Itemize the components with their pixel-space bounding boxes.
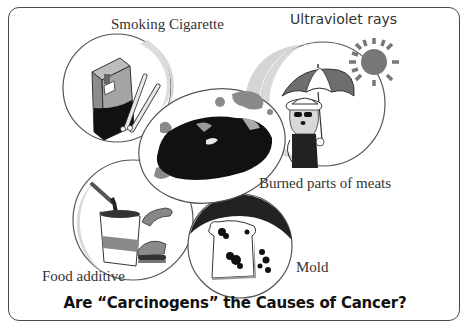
label-food-additive: Food additive — [42, 269, 125, 284]
label-ultraviolet-rays: Ultraviolet rays — [290, 12, 397, 26]
label-smoking-cigarette: Smoking Cigarette — [111, 17, 224, 32]
label-mold: Mold — [296, 260, 329, 275]
mold-illustration — [188, 194, 292, 298]
diagram-title: Are “Carcinogens” the Causes of Cancer? — [0, 296, 470, 311]
label-burned-meats: Burned parts of meats — [259, 176, 391, 191]
